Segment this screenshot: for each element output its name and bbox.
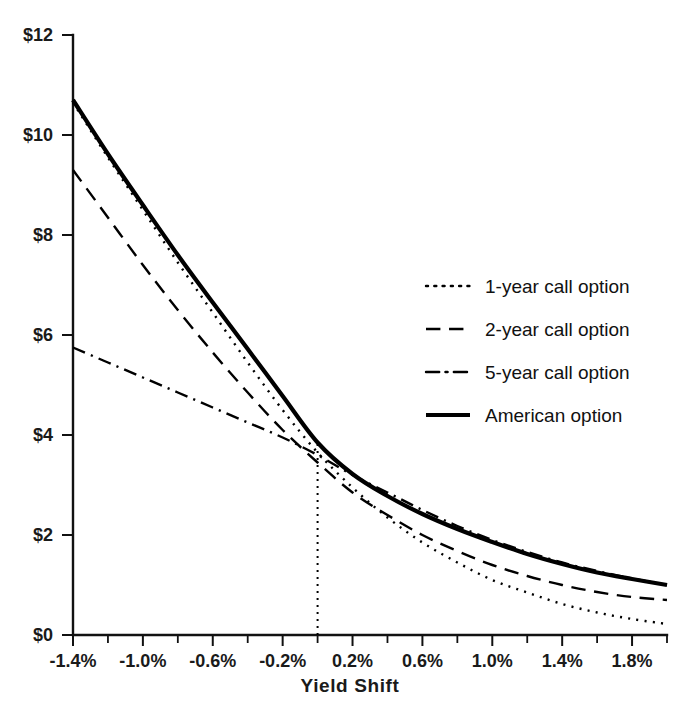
y-axis-tick-label: $2 [33,525,53,545]
y-axis-tick-group: $0$2$4$6$8$10$12 [23,25,73,645]
legend-label: 5-year call option [485,362,630,383]
x-axis-tick-group: -1.4%-1.0%-0.6%-0.2%0.2%0.6%1.0%1.4%1.8% [49,635,667,671]
legend-label: 1-year call option [485,276,630,297]
option-value-vs-yield-shift-chart: $0$2$4$6$8$10$12 -1.4%-1.0%-0.6%-0.2%0.2… [0,0,697,719]
x-axis-tick-label: -1.4% [49,651,96,671]
legend-label: 2-year call option [485,319,630,340]
y-axis-tick-label: $12 [23,25,53,45]
x-axis-tick-label: 1.4% [542,651,583,671]
legend-label: American option [485,405,622,426]
y-axis-tick-label: $0 [33,625,53,645]
x-axis-tick-label: -0.6% [189,651,236,671]
x-axis-tick-label: 1.0% [472,651,513,671]
legend-item-american-option[interactable]: American option [426,405,622,426]
x-axis-tick-label: 1.8% [612,651,653,671]
x-axis-tick-label: 0.2% [332,651,373,671]
chart-container: $0$2$4$6$8$10$12 -1.4%-1.0%-0.6%-0.2%0.2… [0,0,697,719]
y-axis-tick-label: $8 [33,225,53,245]
y-axis-tick-label: $10 [23,125,53,145]
series-line-american-option [73,100,667,585]
y-axis-tick-label: $6 [33,325,53,345]
y-axis-tick-label: $4 [33,425,53,445]
x-axis-title: Yield Shift [301,675,400,696]
legend-item-2-year-call-option[interactable]: 2-year call option [426,319,630,340]
x-axis-tick-label: 0.6% [402,651,443,671]
legend-item-5-year-call-option[interactable]: 5-year call option [426,362,630,383]
legend-item-1-year-call-option[interactable]: 1-year call option [426,276,630,297]
x-axis-tick-label: -1.0% [119,651,166,671]
series-line-5-year-call-option [73,348,667,586]
chart-legend: 1-year call option2-year call option5-ye… [426,276,630,426]
x-axis-tick-label: -0.2% [259,651,306,671]
